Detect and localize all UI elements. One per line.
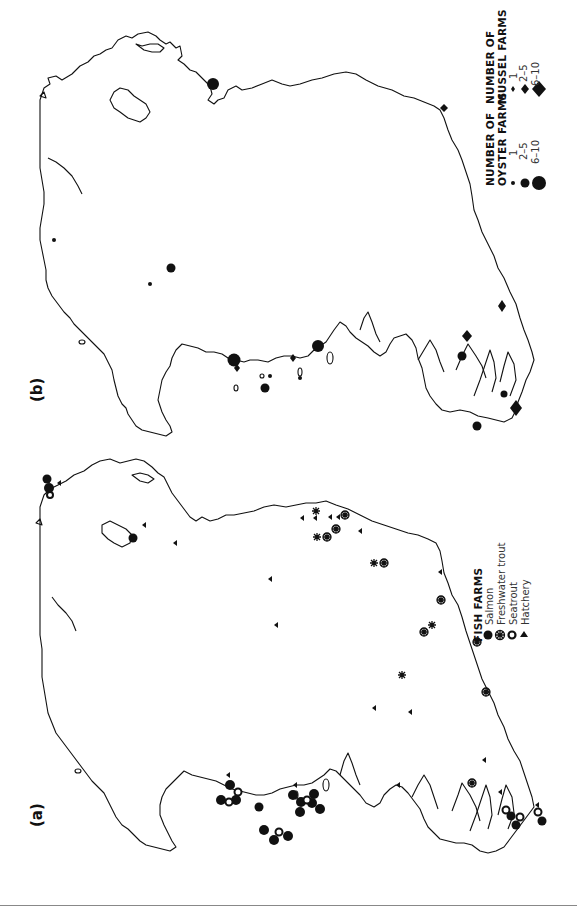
oyster-label-2-5: 2–5 — [518, 142, 529, 160]
oyster-legend-title-1: NUMBER OF — [484, 92, 496, 186]
coastline-a — [40, 459, 534, 853]
map-panel-b: (b) — [0, 0, 577, 455]
oyster-legend: NUMBER OF OYSTER FARMS — [484, 92, 508, 186]
fish-farms-legend-title: FISH FARMS — [472, 568, 484, 642]
lake-b — [110, 88, 150, 122]
mussel-markers — [234, 104, 522, 416]
salmon-markers — [43, 475, 547, 846]
mussel-legend: NUMBER OF MUSSEL FARMS — [484, 9, 508, 104]
bottom-divider — [0, 905, 577, 906]
map-panel-a: (a) — [0, 455, 577, 905]
legend-label-salmon: Salmon — [484, 588, 495, 625]
mussel-label-2-5: 2–5 — [518, 64, 529, 82]
oyster-legend-title-2: OYSTER FARMS — [496, 92, 508, 186]
coastline-map-a — [0, 455, 577, 905]
legend-label-hatchery: Hatchery — [520, 579, 531, 625]
mussel-legend-title-1: NUMBER OF — [484, 9, 496, 104]
mussel-label-6-10: 6–10 — [530, 62, 541, 86]
legend-label-seatrout: Seatrout — [508, 582, 519, 625]
freshwater-trout-markers — [312, 507, 490, 787]
lake-a — [102, 521, 132, 547]
mussel-legend-title-2: MUSSEL FARMS — [496, 9, 508, 104]
oyster-markers — [52, 78, 508, 431]
seatrout-markers — [47, 492, 542, 836]
hatchery-markers — [57, 480, 539, 808]
legend-label-freshwater-trout: Freshwater trout — [496, 543, 507, 625]
oyster-label-6-10: 6–10 — [530, 140, 541, 164]
